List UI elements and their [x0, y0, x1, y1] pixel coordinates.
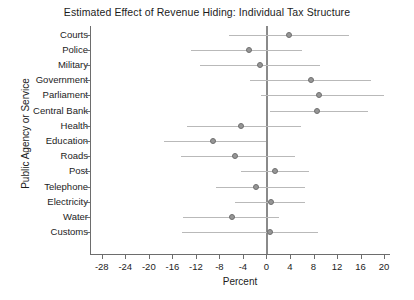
estimate-point-marker — [316, 92, 322, 98]
x-axis-tick — [314, 255, 315, 259]
y-axis-label-courts: Courts — [60, 30, 88, 40]
y-axis-tick — [85, 217, 90, 218]
y-axis-label-telephone: Telephone — [44, 182, 88, 192]
x-axis-tick — [266, 255, 267, 259]
data-row — [0, 164, 414, 179]
estimate-point-marker — [246, 47, 252, 53]
x-axis-tick — [149, 255, 150, 259]
estimate-point-marker — [268, 199, 274, 205]
x-axis-tick — [243, 255, 244, 259]
confidence-interval-line — [181, 156, 296, 157]
y-axis-label-health: Health — [61, 121, 88, 131]
confidence-interval-line — [187, 126, 301, 127]
y-axis-label-parliament: Parliament — [43, 90, 88, 100]
estimate-point-marker — [253, 184, 259, 190]
x-axis-tick — [384, 255, 385, 259]
dot-and-whisker-chart: Estimated Effect of Revenue Hiding: Indi… — [0, 0, 414, 300]
estimate-point-marker — [210, 138, 216, 144]
x-axis-tick — [337, 255, 338, 259]
estimate-point-marker — [314, 108, 320, 114]
chart-title: Estimated Effect of Revenue Hiding: Indi… — [0, 6, 414, 18]
y-axis-label-roads: Roads — [61, 151, 88, 161]
y-axis-tick — [85, 156, 90, 157]
confidence-interval-line — [216, 187, 304, 188]
x-axis-tick — [125, 255, 126, 259]
estimate-point-marker — [238, 123, 244, 129]
y-axis-label-electricity: Electricity — [47, 197, 88, 207]
estimate-point-marker — [257, 62, 263, 68]
y-axis-tick — [85, 35, 90, 36]
estimate-point-marker — [229, 214, 235, 220]
x-axis-tick — [172, 255, 173, 259]
y-axis-tick — [85, 95, 90, 96]
y-axis-tick — [85, 202, 90, 203]
x-axis-tick — [361, 255, 362, 259]
x-axis-line — [90, 254, 390, 255]
estimate-point-marker — [272, 168, 278, 174]
x-axis-tick — [196, 255, 197, 259]
y-axis-label-government: Government — [36, 75, 88, 85]
x-axis-title: Percent — [90, 276, 390, 287]
estimate-point-marker — [232, 153, 238, 159]
y-axis-label-customs: Customs — [51, 227, 88, 237]
y-axis-tick — [85, 187, 90, 188]
x-axis-tick — [219, 255, 220, 259]
y-axis-tick — [85, 111, 90, 112]
y-axis-tick — [85, 65, 90, 66]
y-axis-title: Public Agency or Service — [20, 54, 31, 214]
estimate-point-marker — [267, 229, 273, 235]
y-axis-tick — [85, 50, 90, 51]
confidence-interval-line — [182, 232, 318, 233]
x-axis-tick — [290, 255, 291, 259]
y-axis-label-education: Education — [46, 136, 88, 146]
x-axis-tick — [102, 255, 103, 259]
y-axis-tick — [85, 141, 90, 142]
y-axis-tick — [85, 80, 90, 81]
confidence-interval-line — [261, 95, 383, 96]
x-axis-tick-label: 20 — [369, 261, 399, 272]
y-axis-label-military: Military — [58, 60, 88, 70]
y-axis-tick — [85, 171, 90, 172]
y-axis-tick — [85, 232, 90, 233]
estimate-point-marker — [286, 32, 292, 38]
estimate-point-marker — [308, 77, 314, 83]
y-axis-tick — [85, 126, 90, 127]
y-axis-label-central-bank: Central Bank — [33, 106, 88, 116]
